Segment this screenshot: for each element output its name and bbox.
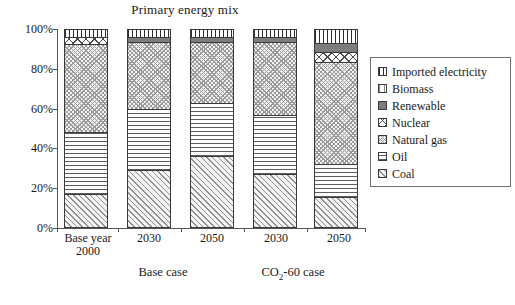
stacked-bar[interactable]: [127, 29, 171, 228]
bar-segment-natural-gas[interactable]: [65, 44, 107, 133]
chart-title: Primary energy mix: [0, 2, 370, 18]
group-label-co2-60-case: CO2-60 case: [233, 265, 353, 282]
stacked-bar[interactable]: [190, 29, 234, 228]
x-axis-labels: Base year 2000 2030 2050 2030 2050 Base …: [58, 232, 366, 272]
legend-swatch-icon: [378, 169, 387, 178]
group-label-suffix: -60 case: [283, 265, 324, 279]
legend-item[interactable]: Oil: [378, 148, 504, 165]
bar-segment-oil[interactable]: [254, 115, 296, 174]
legend-item[interactable]: Biomass: [378, 80, 504, 97]
chart-legend: Imported electricityBiomassRenewableNucl…: [370, 57, 511, 187]
plot-area: 0% 20% 40% 60% 80% 100%: [58, 29, 366, 228]
legend-label: Oil: [392, 151, 407, 163]
y-tick-label: 100%: [25, 23, 53, 35]
legend-item[interactable]: Nuclear: [378, 114, 504, 131]
bar-segment-oil[interactable]: [128, 109, 170, 170]
x-tick-label-line2: 2000: [45, 245, 131, 258]
legend-swatch-icon: [378, 135, 387, 144]
legend-label: Imported electricity: [392, 66, 487, 78]
bar-segment-oil[interactable]: [65, 132, 107, 193]
legend-label: Biomass: [392, 83, 433, 95]
bar-segment-natural-gas[interactable]: [128, 42, 170, 109]
bar-segment-renewable[interactable]: [315, 43, 357, 52]
legend-label: Renewable: [392, 100, 445, 112]
x-tick-label: 2050: [296, 232, 382, 245]
x-axis-line: [57, 228, 366, 229]
bar-segment-nuclear[interactable]: [65, 37, 107, 44]
stacked-bar[interactable]: [64, 29, 108, 228]
legend-swatch-icon: [378, 118, 387, 127]
legend-label: Coal: [392, 168, 415, 180]
bar-segment-imported-electricity[interactable]: [315, 30, 357, 43]
bar-segment-coal[interactable]: [191, 156, 233, 227]
y-tick-label: 20%: [31, 182, 53, 194]
legend-item[interactable]: Imported electricity: [378, 63, 504, 80]
bar-segment-coal[interactable]: [254, 174, 296, 227]
bar-segment-imported-electricity[interactable]: [191, 30, 233, 37]
y-axis-line: [57, 29, 58, 229]
legend-item[interactable]: Coal: [378, 165, 504, 182]
group-label-prefix: CO: [261, 265, 278, 279]
chart-figure: Primary energy mix 0% 20% 40% 60% 80% 10…: [0, 0, 515, 305]
legend-item[interactable]: Renewable: [378, 97, 504, 114]
bar-segment-nuclear[interactable]: [315, 52, 357, 62]
bar-segment-imported-electricity[interactable]: [128, 30, 170, 37]
y-tick-label: 40%: [31, 142, 53, 154]
stacked-bar[interactable]: [253, 29, 297, 228]
y-tick-label: 80%: [31, 63, 53, 75]
bar-segment-natural-gas[interactable]: [315, 62, 357, 164]
group-label-base-case: Base case: [103, 265, 223, 280]
bar-segment-natural-gas[interactable]: [254, 42, 296, 115]
bar-segment-coal[interactable]: [315, 197, 357, 227]
legend-label: Nuclear: [392, 117, 430, 129]
bar-segment-oil[interactable]: [315, 164, 357, 198]
legend-swatch-icon: [378, 67, 387, 76]
stacked-bar[interactable]: [314, 29, 358, 228]
bar-segment-imported-electricity[interactable]: [65, 30, 107, 37]
legend-swatch-icon: [378, 84, 387, 93]
legend-swatch-icon: [378, 152, 387, 161]
bar-segment-imported-electricity[interactable]: [254, 30, 296, 37]
bar-segment-natural-gas[interactable]: [191, 42, 233, 103]
y-tick-label: 60%: [31, 103, 53, 115]
legend-swatch-icon: [378, 101, 387, 110]
bar-segment-oil[interactable]: [191, 103, 233, 156]
bar-segment-coal[interactable]: [65, 194, 107, 228]
legend-item[interactable]: Natural gas: [378, 131, 504, 148]
legend-label: Natural gas: [392, 134, 447, 146]
bar-segment-coal[interactable]: [128, 170, 170, 227]
